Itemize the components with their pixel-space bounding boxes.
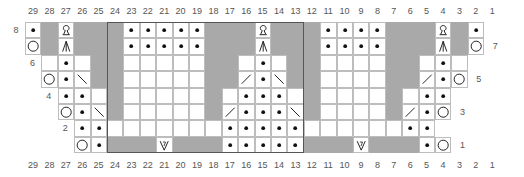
no-stitch-cell (451, 38, 467, 54)
purl-dot-icon (369, 22, 385, 38)
knit-cell (173, 104, 189, 120)
knit-cell (123, 104, 139, 120)
column-number: 17 (222, 160, 238, 170)
knit-cell (238, 55, 254, 71)
yarn-over-circle-icon (435, 137, 451, 153)
no-stitch-cell (91, 71, 107, 87)
knit-cell (369, 104, 385, 120)
column-number: 18 (205, 6, 221, 16)
no-stitch-cell (287, 55, 303, 71)
no-stitch-cell (304, 137, 320, 153)
column-number: 3 (451, 160, 467, 170)
purl-dot-icon (271, 137, 287, 153)
no-stitch-cell (451, 22, 467, 38)
column-number: 14 (271, 160, 287, 170)
column-number: 16 (238, 6, 254, 16)
right-slant-decrease-icon (91, 104, 107, 120)
no-stitch-cell (337, 137, 353, 153)
no-stitch-cell (238, 38, 254, 54)
column-number: 27 (58, 6, 74, 16)
column-number: 25 (91, 160, 107, 170)
knit-cell (451, 55, 467, 71)
column-number: 19 (189, 160, 205, 170)
purl-dot-icon (353, 38, 369, 54)
left-slant-decrease-icon (419, 71, 435, 87)
knit-cell (320, 55, 336, 71)
no-stitch-cell (386, 38, 402, 54)
no-stitch-cell (205, 38, 221, 54)
column-number: 26 (74, 6, 90, 16)
column-number: 24 (107, 160, 123, 170)
no-stitch-cell (304, 104, 320, 120)
no-stitch-cell (74, 38, 90, 54)
purl-dot-icon (271, 104, 287, 120)
knit-cell (173, 71, 189, 87)
knit-cell (123, 71, 139, 87)
row-number-right: 3 (455, 107, 469, 117)
purl-dot-icon (74, 120, 90, 136)
knit-cell (337, 104, 353, 120)
column-number: 13 (287, 6, 303, 16)
purl-dot-icon (255, 88, 271, 104)
knit-cell (337, 88, 353, 104)
column-number: 12 (304, 6, 320, 16)
purl-dot-icon (140, 22, 156, 38)
no-stitch-cell (287, 71, 303, 87)
no-stitch-cell (271, 22, 287, 38)
no-stitch-cell (402, 137, 418, 153)
no-stitch-cell (107, 38, 123, 54)
no-stitch-cell (419, 22, 435, 38)
column-number: 20 (173, 6, 189, 16)
purl-dot-icon (271, 88, 287, 104)
column-number: 10 (337, 160, 353, 170)
purl-dot-icon (74, 88, 90, 104)
column-number: 7 (386, 6, 402, 16)
column-number: 22 (140, 6, 156, 16)
knit-cell (353, 55, 369, 71)
knit-cell (91, 88, 107, 104)
column-number: 6 (402, 6, 418, 16)
no-stitch-cell (402, 71, 418, 87)
no-stitch-cell (386, 22, 402, 38)
knit-cell (320, 120, 336, 136)
row-number-right: 7 (488, 41, 502, 51)
no-stitch-cell (287, 38, 303, 54)
no-stitch-cell (304, 22, 320, 38)
purl-dot-icon (369, 38, 385, 54)
purl-dot-icon (222, 137, 238, 153)
purl-dot-icon (255, 55, 271, 71)
knit-cell (173, 55, 189, 71)
column-number: 13 (287, 160, 303, 170)
knit-cell (140, 88, 156, 104)
row-number-left: 4 (42, 91, 56, 101)
no-stitch-cell (386, 137, 402, 153)
no-stitch-cell (222, 55, 238, 71)
yarn-over-circle-icon (25, 38, 41, 54)
knit-cell (156, 55, 172, 71)
double-decrease-icon (435, 38, 451, 54)
slip-v7-stitch-icon (156, 137, 172, 153)
column-number: 23 (123, 160, 139, 170)
knit-cell (74, 55, 90, 71)
purl-dot-icon (91, 137, 107, 153)
loop-stitch-icon (435, 22, 451, 38)
purl-dot-icon (173, 22, 189, 38)
knit-cell (320, 88, 336, 104)
purl-dot-icon (468, 22, 484, 38)
purl-dot-icon (123, 38, 139, 54)
no-stitch-cell (222, 22, 238, 38)
knit-cell (353, 71, 369, 87)
row-number-left: 6 (25, 58, 39, 68)
no-stitch-cell (74, 22, 90, 38)
purl-dot-icon (419, 104, 435, 120)
left-slant-decrease-icon (402, 104, 418, 120)
no-stitch-cell (91, 55, 107, 71)
knit-cell (123, 55, 139, 71)
purl-dot-icon (173, 38, 189, 54)
column-number: 11 (320, 6, 336, 16)
column-number: 15 (255, 160, 271, 170)
column-number: 3 (451, 6, 467, 16)
knit-cell (189, 88, 205, 104)
column-number: 1 (484, 6, 500, 16)
no-stitch-cell (189, 137, 205, 153)
